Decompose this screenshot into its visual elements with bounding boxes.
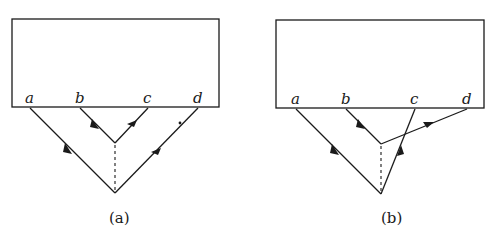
panel-b-line-a-to-vertex bbox=[296, 109, 381, 194]
panel-a-line-a-to-vertex bbox=[30, 108, 115, 193]
panel-a-label-a: a bbox=[25, 89, 34, 107]
panel-b-line-b-to-inner bbox=[346, 109, 381, 144]
panel-b-box bbox=[276, 20, 484, 108]
panel-a-label-d: d bbox=[193, 89, 203, 107]
panel-a-caption: (a) bbox=[109, 209, 130, 227]
panel-b: a b c d (b) bbox=[276, 20, 484, 227]
panel-a-box bbox=[12, 19, 219, 107]
panel-a-label-b: b bbox=[75, 89, 85, 107]
panel-b-arrow-d-line-icon bbox=[423, 122, 434, 128]
panel-b-label-b: b bbox=[341, 90, 351, 108]
panel-a-arrow-b-line-icon bbox=[90, 119, 99, 129]
panel-a-dot-marker bbox=[179, 122, 182, 125]
diagram-figure: a b c d (a) a b c d bbox=[0, 0, 497, 246]
panel-b-label-d: d bbox=[462, 90, 472, 108]
panel-b-line-vertex-to-c bbox=[381, 109, 415, 194]
panel-a: a b c d (a) bbox=[12, 19, 219, 227]
panel-b-label-c: c bbox=[410, 90, 419, 108]
panel-a-line-b-to-inner bbox=[80, 108, 115, 143]
panel-a-arrow-c-line-icon bbox=[127, 120, 137, 127]
panel-b-arrow-a-line-icon bbox=[330, 144, 339, 155]
panel-b-line-inner-to-d bbox=[381, 109, 467, 144]
panel-b-label-a: a bbox=[291, 90, 300, 108]
panel-b-caption: (b) bbox=[381, 209, 402, 227]
panel-a-label-c: c bbox=[143, 89, 152, 107]
